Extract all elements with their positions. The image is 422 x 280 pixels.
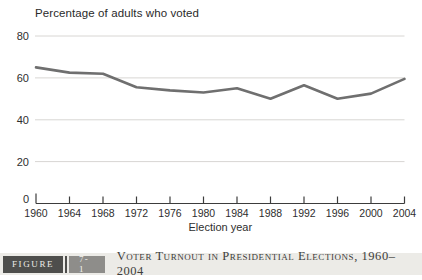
y-tick-label-60: 60 <box>17 72 29 84</box>
x-tick-label-1964: 1964 <box>58 207 82 219</box>
x-tick-label-1984: 1984 <box>225 207 249 219</box>
caption-divider <box>65 256 67 273</box>
figure-caption-text: Voter Turnout in Presidential Elections,… <box>117 249 422 279</box>
x-tick-label-1980: 1980 <box>192 207 216 219</box>
x-tick-label-1988: 1988 <box>259 207 283 219</box>
x-tick-label-1960: 1960 <box>24 207 48 219</box>
y-tick-label-40: 40 <box>17 114 29 126</box>
y-tick-label-0: 0 <box>23 193 29 205</box>
x-tick-label-1992: 1992 <box>292 207 316 219</box>
figure-caption-bar: FIGURE 7-1 Voter Turnout in Presidential… <box>0 253 422 275</box>
x-tick-label-1996: 1996 <box>326 207 350 219</box>
chart-svg: 0204060801960196419681972197619801984198… <box>0 0 422 248</box>
x-tick-label-1968: 1968 <box>91 207 115 219</box>
x-tick-label-1972: 1972 <box>125 207 149 219</box>
x-tick-label-2000: 2000 <box>359 207 383 219</box>
y-tick-label-20: 20 <box>17 156 29 168</box>
y-tick-label-80: 80 <box>17 30 29 42</box>
textbook-figure-page: Percentage of adults who voted 020406080… <box>0 0 422 280</box>
figure-number: 7-1 <box>69 256 105 273</box>
figure-label: FIGURE <box>3 256 63 273</box>
x-tick-label-1976: 1976 <box>158 207 182 219</box>
x-tick-label-2004: 2004 <box>393 207 417 219</box>
x-axis-title: Election year <box>189 221 253 233</box>
voter-turnout-line <box>36 67 405 98</box>
